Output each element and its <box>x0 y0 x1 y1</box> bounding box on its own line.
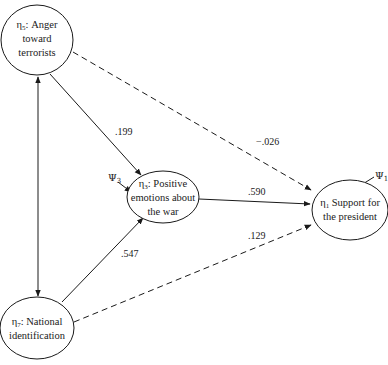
node-eta5: η5: Anger toward terrorists <box>1 5 73 75</box>
edge-eta3-eta1 <box>199 199 310 204</box>
edge-eta7-eta1 <box>74 225 311 322</box>
svg-text:the president: the president <box>323 211 377 222</box>
label-eta3-eta1: .590 <box>248 186 266 197</box>
edge-eta5-eta1 <box>73 52 311 190</box>
node-eta1: η1 Support for the president <box>312 180 388 240</box>
edge-eta7-eta3 <box>62 218 143 302</box>
path-diagram: η5: Anger toward terrorists η3: Positive… <box>0 0 388 365</box>
node-eta3: η3: Positive emotions about the war <box>127 171 199 223</box>
svg-text:toward: toward <box>22 33 52 44</box>
svg-text:terrorists: terrorists <box>18 47 55 58</box>
svg-text:emotions about: emotions about <box>131 192 196 203</box>
node-eta7: η7: National identification <box>0 297 74 359</box>
svg-text:the war: the war <box>147 206 179 217</box>
label-eta5-eta1: −.026 <box>256 136 279 147</box>
label-eta5-eta3: .199 <box>115 126 133 137</box>
disturbance-psi3-label: Ψ3 <box>108 172 121 185</box>
disturbance-psi1-label: Ψ1 <box>375 170 388 183</box>
label-eta7-eta3: .547 <box>121 248 139 259</box>
edge-eta5-eta3 <box>50 74 141 175</box>
label-eta7-eta1: .129 <box>248 230 266 241</box>
svg-text:identification: identification <box>9 330 66 341</box>
